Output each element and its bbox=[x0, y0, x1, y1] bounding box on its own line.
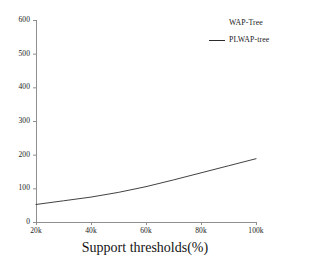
legend-label: WAP-Tree bbox=[229, 18, 263, 27]
series-line-plwap-tree bbox=[36, 159, 256, 205]
x-tick-label: 20k bbox=[21, 227, 51, 235]
y-tick-label: 0 bbox=[4, 218, 30, 226]
legend-line-marker-icon bbox=[208, 35, 226, 45]
legend-empty-marker-icon bbox=[208, 18, 226, 28]
x-tick-label: 60k bbox=[131, 227, 161, 235]
x-axis-title: Support thresholds(%) bbox=[0, 240, 290, 256]
chart-figure: 0100200300400500600 20k40k60k80k100k Sup… bbox=[0, 0, 312, 270]
y-tick-label: 500 bbox=[4, 50, 30, 58]
x-tick-label: 100k bbox=[241, 227, 271, 235]
y-tick-label: 300 bbox=[4, 117, 30, 125]
y-tick-label: 400 bbox=[4, 83, 30, 91]
y-tick-label: 100 bbox=[4, 184, 30, 192]
legend-item[interactable]: WAP-Tree bbox=[208, 16, 308, 29]
legend-label: PLWAP-tree bbox=[229, 35, 269, 44]
y-tick-label: 600 bbox=[4, 16, 30, 24]
y-axis-ticks bbox=[33, 21, 36, 223]
x-tick-label: 40k bbox=[76, 227, 106, 235]
legend-item[interactable]: PLWAP-tree bbox=[208, 33, 308, 46]
data-series-group bbox=[36, 159, 256, 205]
x-tick-label: 80k bbox=[186, 227, 216, 235]
chart-legend: WAP-TreePLWAP-tree bbox=[208, 16, 308, 50]
y-tick-label: 200 bbox=[4, 151, 30, 159]
